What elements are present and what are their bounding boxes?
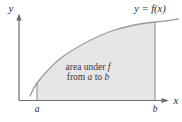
caption-line2-symbol-b: b [104, 72, 109, 82]
caption-line2-mid: to [92, 72, 104, 82]
area-under-curve-figure: y x a b y = f(x) area under f from a to … [0, 0, 182, 122]
y-axis-label: y [8, 2, 14, 14]
y-axis-arrow-icon [16, 14, 21, 21]
region-caption-line-2: from a to b [67, 72, 110, 82]
caption-line2-pre: from [67, 72, 88, 82]
x-axis-arrow-icon [162, 98, 170, 103]
region-caption-line-1: area under f [66, 62, 112, 72]
tick-label-b: b [153, 104, 158, 114]
tick-label-a: a [35, 104, 40, 114]
curve-label: y = f(x) [133, 3, 166, 15]
x-axis-label: x [173, 94, 179, 106]
caption-line1-pre: area under [66, 62, 108, 72]
shaded-area-region [37, 22, 155, 100]
